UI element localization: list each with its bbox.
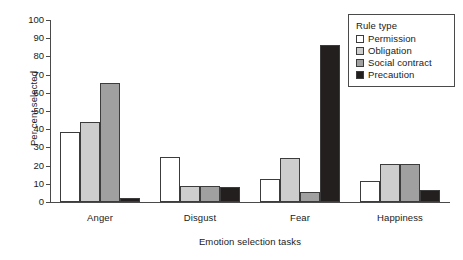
y-axis-tick bbox=[46, 111, 50, 112]
bar bbox=[160, 157, 180, 202]
bar bbox=[320, 45, 340, 202]
x-axis-group-label: Happiness bbox=[350, 212, 450, 223]
legend-title: Rule type bbox=[356, 20, 448, 31]
bar bbox=[220, 187, 240, 202]
bar-chart-figure: Per cent selected 0102030405060708090100… bbox=[0, 0, 463, 260]
bar bbox=[300, 192, 320, 202]
y-axis-tick-label: 20 bbox=[14, 161, 44, 171]
legend-label: Precaution bbox=[368, 69, 414, 80]
y-axis-line bbox=[50, 20, 51, 203]
bar bbox=[260, 179, 280, 202]
legend-swatch bbox=[356, 59, 364, 67]
legend-label: Permission bbox=[368, 33, 416, 44]
y-axis-tick bbox=[46, 184, 50, 185]
bar bbox=[360, 181, 380, 202]
bar bbox=[180, 186, 200, 202]
y-axis-tick bbox=[46, 129, 50, 130]
y-axis-tick-label: 10 bbox=[14, 179, 44, 189]
y-axis-tick bbox=[46, 75, 50, 76]
y-axis-tick-label: 100 bbox=[14, 15, 44, 25]
legend-entry: Obligation bbox=[356, 45, 448, 56]
x-axis-group-label: Disgust bbox=[150, 212, 250, 223]
legend-entry: Social contract bbox=[356, 57, 448, 68]
legend-label: Social contract bbox=[368, 57, 432, 68]
bar bbox=[100, 83, 120, 202]
bar bbox=[60, 132, 80, 202]
bar bbox=[380, 164, 400, 202]
x-axis-group-label: Anger bbox=[50, 212, 150, 223]
y-axis-tick-label: 80 bbox=[14, 51, 44, 61]
bar bbox=[400, 164, 420, 202]
y-axis-tick-label: 0 bbox=[14, 197, 44, 207]
legend-swatch bbox=[356, 71, 364, 79]
y-axis-tick-label: 50 bbox=[14, 106, 44, 116]
y-axis-tick bbox=[46, 147, 50, 148]
x-axis-group-label: Fear bbox=[250, 212, 350, 223]
legend-swatch bbox=[356, 35, 364, 43]
y-axis-tick bbox=[46, 93, 50, 94]
y-axis-tick bbox=[46, 20, 50, 21]
y-axis-tick-label: 30 bbox=[14, 142, 44, 152]
bar bbox=[420, 190, 440, 202]
legend-entries: PermissionObligationSocial contractPreca… bbox=[356, 33, 448, 80]
legend-entry: Precaution bbox=[356, 69, 448, 80]
y-axis-tick-label: 40 bbox=[14, 124, 44, 134]
legend-entry: Permission bbox=[356, 33, 448, 44]
x-axis-title: Emotion selection tasks bbox=[50, 236, 450, 247]
y-axis-tick-label: 70 bbox=[14, 70, 44, 80]
bar bbox=[80, 122, 100, 202]
bar bbox=[280, 158, 300, 202]
y-axis-tick-label: 90 bbox=[14, 33, 44, 43]
y-axis-tick-label: 60 bbox=[14, 88, 44, 98]
x-axis-line bbox=[50, 202, 450, 203]
y-axis-tick bbox=[46, 166, 50, 167]
bar bbox=[200, 186, 220, 202]
y-axis-tick bbox=[46, 38, 50, 39]
chart-legend: Rule type PermissionObligationSocial con… bbox=[348, 14, 455, 87]
legend-label: Obligation bbox=[368, 45, 412, 56]
legend-swatch bbox=[356, 47, 364, 55]
y-axis-tick bbox=[46, 56, 50, 57]
bar bbox=[120, 198, 140, 202]
